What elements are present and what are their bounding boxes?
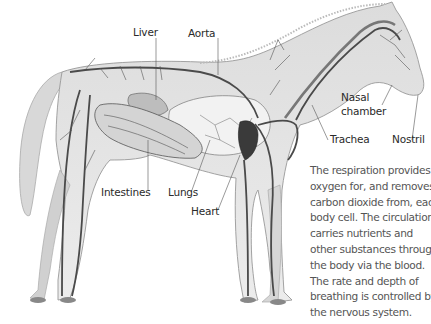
label-liver: Liver [133,26,158,38]
label-nasal-chamber-1: Nasal [341,91,369,103]
caption-line: breathing is controlled by [310,289,431,305]
label-nostril: Nostril [392,133,425,145]
caption-line: oxygen for, and removes [310,179,431,195]
caption-line: The rate and depth of [310,274,431,290]
hooves [30,297,286,305]
label-aorta: Aorta [188,27,215,39]
caption-line: body cell. The circulation [310,210,431,226]
caption-line: the nervous system. [310,305,431,321]
label-heart: Heart [191,205,219,217]
caption-line: other substances through [310,242,431,258]
diagram-stage: Liver Aorta Nasal chamber Trachea Nostri… [0,0,431,324]
caption-line: the body via the blood. [310,258,431,274]
label-lungs: Lungs [168,186,198,198]
caption-line: carries nutrients and [310,226,431,242]
label-intestines: Intestines [101,186,150,198]
caption-text: The respiration provides oxygen for, and… [310,163,431,321]
caption-line: carbon dioxide from, each [310,195,431,211]
label-trachea: Trachea [330,133,370,145]
label-nasal-chamber-2: chamber [341,105,386,117]
caption-line: The respiration provides [310,163,431,179]
